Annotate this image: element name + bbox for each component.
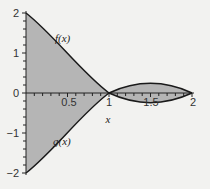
- xtick-1: 1: [106, 96, 112, 108]
- x-axis-label: x: [105, 113, 111, 125]
- ytick-m2: −2: [6, 167, 19, 179]
- ytick-2: 2: [13, 7, 19, 19]
- ytick-0: 0: [13, 87, 19, 99]
- g-label: g(x): [53, 135, 71, 148]
- f-label: f(x): [55, 32, 71, 45]
- chart: 2 1 0 −1 −2 0.5 1 1.5 2 x f(x) g(x): [0, 0, 210, 189]
- ytick-m1: −1: [6, 127, 19, 139]
- xtick-1.5: 1.5: [143, 96, 158, 108]
- xtick-2: 2: [190, 96, 196, 108]
- ytick-1: 1: [13, 47, 19, 59]
- xtick-0.5: 0.5: [61, 96, 76, 108]
- y-ticks: [22, 13, 26, 173]
